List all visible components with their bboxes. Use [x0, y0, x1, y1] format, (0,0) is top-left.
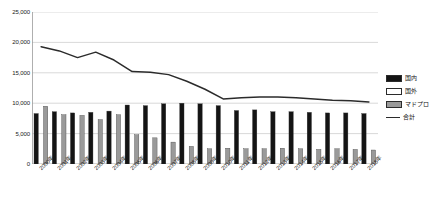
- line-series: [41, 47, 369, 102]
- legend-swatch-icon: [386, 101, 402, 108]
- y-tick-label: 15,000: [2, 70, 30, 76]
- bar: [34, 114, 38, 164]
- legend-swatch-icon: [386, 75, 402, 82]
- plot-area: [32, 12, 378, 164]
- legend-item[interactable]: マドプロ: [386, 98, 437, 111]
- legend-label: マドプロ: [405, 101, 429, 108]
- y-tick-label: 25,000: [2, 9, 30, 15]
- y-tick-label: 10,000: [2, 100, 30, 106]
- legend-swatch-icon: [386, 88, 402, 95]
- legend-swatch-icon: [386, 117, 400, 118]
- bar: [161, 104, 165, 164]
- legend-item[interactable]: 国外: [386, 85, 437, 98]
- y-tick-label: 0: [2, 161, 30, 167]
- bar: [43, 106, 47, 164]
- y-tick-label: 20,000: [2, 39, 30, 45]
- legend-item[interactable]: 合計: [386, 111, 437, 124]
- x-axis: 2000年2001年2002年2003年2004年2005年2006年2007年…: [32, 164, 378, 207]
- y-axis: 05,00010,00015,00020,00025,000: [0, 0, 30, 207]
- plot-svg: [32, 12, 378, 164]
- legend-label: 合計: [403, 114, 415, 121]
- legend-label: 国内: [405, 75, 417, 82]
- legend-label: 国外: [405, 88, 417, 95]
- chart-container: 05,00010,00015,00020,00025,000 2000年2001…: [0, 0, 437, 207]
- legend-item[interactable]: 国内: [386, 72, 437, 85]
- chart-legend: 国内国外マドプロ合計: [386, 72, 437, 124]
- y-tick-label: 5,000: [2, 131, 30, 137]
